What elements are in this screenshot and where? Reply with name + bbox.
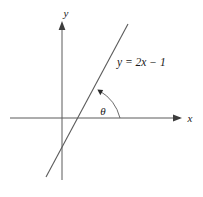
line-equation-label: y = 2x − 1 bbox=[116, 56, 166, 69]
y-axis bbox=[59, 21, 66, 180]
x-axis bbox=[10, 115, 182, 122]
y-axis-label: y bbox=[63, 7, 69, 19]
y-axis-arrowhead bbox=[59, 21, 66, 30]
plotted-line bbox=[46, 24, 128, 177]
x-axis-label: x bbox=[187, 112, 193, 124]
graph-canvas: y x y = 2x − 1 θ bbox=[0, 0, 203, 197]
x-axis-arrowhead bbox=[173, 115, 182, 122]
angle-theta-label: θ bbox=[100, 105, 106, 117]
line-graph-figure: y x y = 2x − 1 θ bbox=[0, 0, 203, 197]
